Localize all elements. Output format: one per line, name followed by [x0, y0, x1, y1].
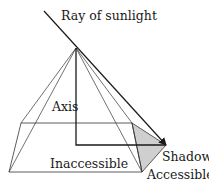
sunlight-ray-arrow: [44, 11, 166, 145]
accessible-label: Accessible: [146, 167, 209, 182]
inaccessible-label: Inaccessible: [50, 156, 128, 171]
edge-back-right: [76, 48, 132, 123]
edge-front-right: [76, 48, 142, 172]
axis-label: Axis: [51, 99, 79, 114]
pyramid-shadow-diagram: Ray of sunlight Axis Inaccessible Shadow…: [0, 0, 209, 190]
ray-label: Ray of sunlight: [61, 8, 157, 23]
shadow-label: Shadow: [162, 149, 209, 164]
